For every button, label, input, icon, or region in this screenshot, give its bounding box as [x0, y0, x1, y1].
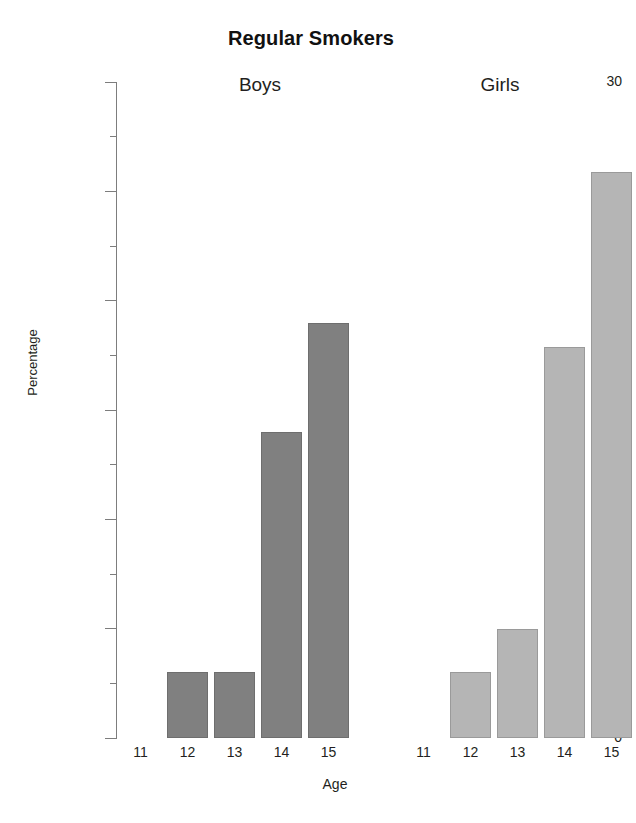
y-axis-tick-minor [110, 464, 117, 465]
plot-panel-girls [400, 82, 600, 738]
x-axis-tick-label: 15 [587, 744, 636, 760]
x-axis-tick-label: 11 [116, 744, 166, 760]
y-axis-tick-minor [110, 355, 117, 356]
bar-girls-age-15 [591, 172, 632, 738]
chart-title: Regular Smokers [0, 27, 622, 50]
y-axis-tick-major [105, 82, 117, 83]
y-axis-tick-minor [110, 574, 117, 575]
y-axis-label: Percentage [25, 303, 40, 423]
x-axis-tick-label: 14 [257, 744, 307, 760]
bar-girls-age-14 [544, 347, 585, 738]
y-axis-tick-minor [110, 246, 117, 247]
bar-girls-age-13 [497, 629, 538, 738]
bar-boys-age-13 [214, 672, 255, 738]
x-axis-label-text: Age [323, 776, 348, 792]
x-axis-tick-label: 13 [210, 744, 260, 760]
y-axis-tick-major [105, 738, 117, 739]
plot-panel-boys [117, 82, 352, 738]
x-axis-tick-label: 12 [163, 744, 213, 760]
x-axis-tick-label: 13 [493, 744, 543, 760]
bar-boys-age-15 [308, 323, 349, 738]
y-axis-tick-major [105, 191, 117, 192]
y-axis-tick-major [105, 628, 117, 629]
y-axis-tick-major [105, 300, 117, 301]
y-axis-tick-major [105, 410, 117, 411]
x-axis-tick-label: 15 [304, 744, 354, 760]
x-axis-tick-label: 14 [540, 744, 590, 760]
x-axis-tick-label: 11 [399, 744, 449, 760]
bar-girls-age-12 [450, 672, 491, 738]
x-axis-tick-label: 12 [446, 744, 496, 760]
x-axis-label: Age [0, 776, 622, 792]
y-axis-tick-major [105, 519, 117, 520]
y-axis-tick-minor [110, 136, 117, 137]
bar-boys-age-14 [261, 432, 302, 738]
bar-boys-age-12 [167, 672, 208, 738]
y-axis-tick-minor [110, 683, 117, 684]
